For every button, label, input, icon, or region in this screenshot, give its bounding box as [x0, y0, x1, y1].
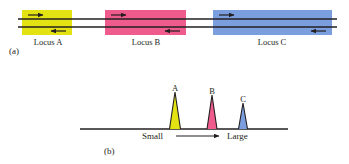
- peak-c-fill: [239, 103, 248, 129]
- axis-label-small: Small: [142, 131, 163, 141]
- locus-label-c: Locus C: [238, 37, 306, 47]
- panel-b-letter: (b): [104, 146, 115, 156]
- panel-a: [18, 10, 337, 35]
- peak-a: [170, 92, 181, 129]
- panel-a-letter: (a): [9, 46, 19, 56]
- peak-b-fill: [207, 95, 217, 129]
- axis-label-large: Large: [227, 131, 248, 141]
- locus-label-b: Locus B: [112, 37, 180, 47]
- peak-label-c: C: [233, 94, 253, 104]
- peak-label-a: A: [165, 83, 185, 93]
- peak-b: [207, 95, 217, 129]
- panel-b: [80, 92, 288, 136]
- locus-label-a: Locus A: [14, 37, 82, 47]
- peak-c: [239, 103, 248, 129]
- figure-canvas: [0, 0, 349, 164]
- peak-a-fill: [170, 92, 181, 129]
- peak-label-b: B: [202, 86, 222, 96]
